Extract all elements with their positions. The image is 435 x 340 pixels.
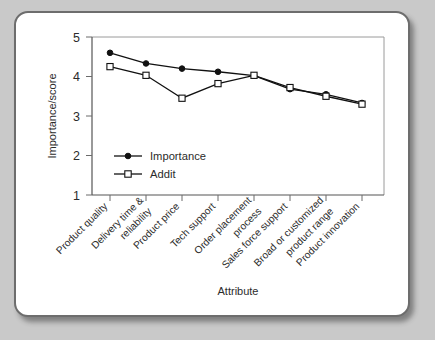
legend-label: Importance: [150, 150, 206, 162]
x-tick-labels: Product quality Delivery time & reliabil…: [54, 194, 361, 270]
chart-plot-area: 5 4 3 2 1 Importance/score: [16, 13, 412, 319]
data-point-open-square: [143, 72, 149, 78]
data-point-filled-circle: [179, 66, 185, 72]
data-point-filled-circle: [215, 69, 221, 75]
legend-label: Addit: [150, 168, 176, 180]
data-series-layer: [107, 50, 365, 107]
open-square-icon: [125, 171, 131, 177]
filled-circle-icon: [125, 153, 131, 159]
y-tick-labels: 5 4 3 2 1: [73, 31, 80, 203]
data-point-open-square: [359, 101, 365, 107]
y-tick-label: 3: [73, 110, 80, 124]
y-tick-label: 4: [73, 70, 80, 84]
data-point-open-square: [251, 72, 257, 78]
data-point-filled-circle: [107, 50, 113, 56]
data-point-open-square: [107, 64, 113, 70]
x-tick-label: Product quality: [54, 200, 110, 256]
data-point-open-square: [287, 84, 293, 90]
y-tick-label: 2: [73, 149, 80, 163]
data-point-filled-circle: [143, 61, 149, 67]
line-chart-svg: 5 4 3 2 1 Importance/score: [16, 13, 412, 319]
y-tick-label: 5: [73, 31, 80, 45]
series-addit: [107, 64, 365, 108]
chart-legend: Importance Addit: [114, 150, 206, 180]
legend-item-addit: Addit: [114, 168, 176, 180]
data-point-open-square: [215, 81, 221, 87]
data-point-open-square: [323, 93, 329, 99]
figure-card: 5 4 3 2 1 Importance/score: [14, 11, 410, 317]
y-tick-label: 1: [73, 189, 80, 203]
y-axis-title: Importance/score: [46, 74, 58, 159]
data-point-open-square: [179, 95, 185, 101]
y-axis: [86, 37, 92, 195]
x-axis-title: Attribute: [218, 285, 259, 297]
legend-item-importance: Importance: [114, 150, 206, 162]
